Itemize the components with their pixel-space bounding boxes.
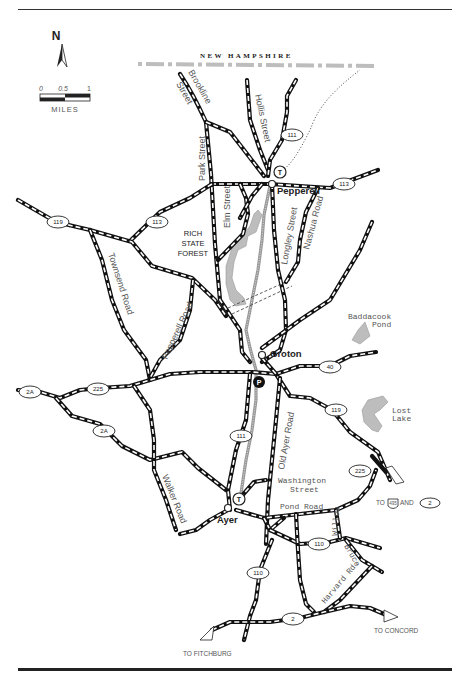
scale-tick-05: 0.5 <box>58 85 68 92</box>
destination-495: TO 495 AND 2 <box>376 498 440 509</box>
destination-fitchburg: TO FITCHBURG <box>183 650 232 657</box>
svg-text:495: 495 <box>389 501 397 506</box>
scale-tick-0: 0 <box>39 85 43 92</box>
rich-state-forest-label: RICH STATE FOREST <box>178 229 209 258</box>
svg-text:TO: TO <box>376 499 385 506</box>
route-shield-40: 40 <box>319 361 341 373</box>
svg-text:T: T <box>278 169 283 176</box>
svg-text:111: 111 <box>236 433 246 439</box>
svg-text:STATE: STATE <box>181 239 204 248</box>
route-shield-2a-south: 2A <box>93 425 115 437</box>
pepperell-marker-icon <box>269 181 276 188</box>
svg-text:110: 110 <box>314 541 324 547</box>
route-shield-111-north: 111 <box>281 129 303 141</box>
pepperell-station-icon: T <box>274 166 286 178</box>
state-label: NEW HAMPSHIRE <box>200 52 293 60</box>
label-park-street: Park Street <box>197 135 207 181</box>
route-shield-113-east: 113 <box>333 178 355 190</box>
town-ayer: Ayer <box>217 514 238 525</box>
route-shield-110-south: 110 <box>247 567 269 579</box>
label-elm-street: Elm Street <box>222 185 232 228</box>
route-shield-119-west: 119 <box>47 216 69 228</box>
label-washington: Washington <box>278 476 326 485</box>
svg-text:119: 119 <box>331 407 341 413</box>
bottom-rule <box>18 668 452 671</box>
svg-text:110: 110 <box>253 570 263 576</box>
svg-text:P: P <box>257 379 262 386</box>
svg-text:40: 40 <box>327 364 334 370</box>
route-shield-113-west: 113 <box>146 216 168 228</box>
svg-text:AND: AND <box>400 499 414 506</box>
north-arrow-icon: N <box>52 29 67 67</box>
label-pond: Pond <box>372 320 391 329</box>
svg-text:113: 113 <box>152 219 162 225</box>
town-pepperell: Pepperell <box>277 185 320 196</box>
svg-text:225: 225 <box>355 468 366 474</box>
destination-concord: TO CONCORD <box>374 627 419 634</box>
arrow-to-concord-icon <box>384 610 398 622</box>
svg-text:FOREST: FOREST <box>178 249 209 258</box>
lost-lake <box>362 396 388 432</box>
compass-label: N <box>52 29 61 43</box>
trail-map: NEW HAMPSHIRE N 0 0.5 1 MILES <box>0 0 458 679</box>
trail-dotted <box>277 70 360 174</box>
svg-text:RICH: RICH <box>184 229 202 238</box>
ayer-marker-icon <box>225 505 232 512</box>
label-old-ayer-road: Old Ayer Road <box>276 411 296 470</box>
route-shield-225-east: 225 <box>349 465 371 477</box>
svg-text:113: 113 <box>339 181 349 187</box>
svg-text:T: T <box>237 496 242 503</box>
svg-text:111: 111 <box>287 132 297 138</box>
svg-text:2A: 2A <box>100 428 107 434</box>
label-washington-street: Street <box>290 485 319 494</box>
groton-marker-icon <box>259 352 266 359</box>
groton-parking-icon: P <box>253 376 265 388</box>
svg-text:2A: 2A <box>26 389 33 395</box>
route-shield-2a-west: 2A <box>19 386 41 398</box>
arrow-to-fitchburg-icon <box>200 626 214 640</box>
label-townsend-road: Townsend Road <box>106 252 135 316</box>
route-shield-225-west: 225 <box>87 383 109 395</box>
scale-unit: MILES <box>51 105 79 114</box>
scale-bar: 0 0.5 1 MILES <box>39 85 91 114</box>
label-longley-street: Longley Street <box>279 206 299 265</box>
scale-tick-1: 1 <box>87 85 91 92</box>
baddacook-pond <box>352 322 370 344</box>
label-pond-road: Pond Road <box>280 502 323 511</box>
label-lake: Lake <box>392 414 411 423</box>
svg-text:119: 119 <box>53 219 63 225</box>
ayer-station-icon: T <box>233 493 245 505</box>
state-border: NEW HAMPSHIRE <box>138 52 378 66</box>
route-shield-110-east: 110 <box>308 538 330 550</box>
town-groton: Groton <box>270 348 302 359</box>
svg-text:225: 225 <box>93 386 104 392</box>
label-pepperell-road: Pepperell Road <box>160 300 195 360</box>
route-shield-111-south: 111 <box>230 430 252 442</box>
route-shield-2: 2 <box>282 613 304 625</box>
route-shield-119-east: 119 <box>325 404 347 416</box>
